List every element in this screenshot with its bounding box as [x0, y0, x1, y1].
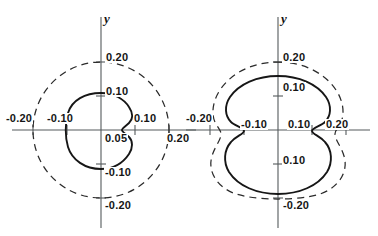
left-label-x-neg010: -0.10 [46, 113, 74, 124]
left-label-y-010: 0.10 [105, 86, 129, 97]
left-label-y-neg010: -0.10 [104, 167, 132, 178]
left-label-y-020: 0.20 [105, 52, 129, 63]
right-label-y-neg010: 0.10 [282, 155, 306, 166]
polar-plot-figure: y 0.20 0.10 -0.20 -0.10 0.10 0.20 0.05 -… [0, 0, 378, 236]
left-label-x-neg020: -0.20 [5, 113, 33, 124]
right-label-y-neg020: -0.20 [282, 200, 310, 211]
left-y-axis-label: y [104, 12, 110, 25]
right-label-x-010: 0.10 [287, 119, 311, 130]
left-label-x-010: 0.10 [133, 113, 157, 124]
left-solid-pattern-curve [66, 93, 132, 169]
left-polar-panel: y 0.20 0.10 -0.20 -0.10 0.10 0.20 0.05 -… [0, 0, 200, 236]
right-polar-panel: y 0.20 0.10 -0.20 -0.10 0.10 0.20 0.10 -… [178, 0, 378, 236]
right-label-y-010: 0.10 [282, 82, 306, 93]
right-label-y-020: 0.20 [282, 52, 306, 63]
right-label-x-neg010: -0.10 [240, 119, 268, 130]
left-label-interior-005: 0.05 [104, 133, 128, 144]
left-label-y-neg020: -0.20 [104, 200, 132, 211]
right-label-x-020: 0.20 [325, 119, 349, 130]
right-label-x-neg020: -0.20 [185, 113, 213, 124]
right-y-axis-label: y [281, 12, 287, 25]
